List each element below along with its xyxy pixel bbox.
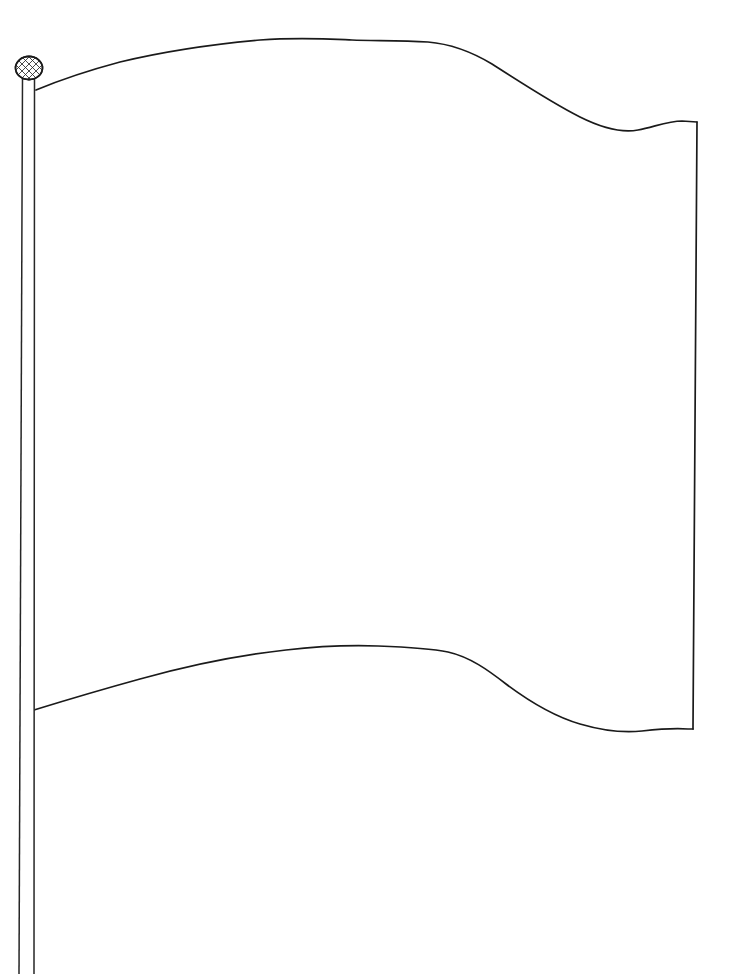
flagpole-right-edge [34, 78, 35, 974]
flag-line-drawing [0, 0, 734, 974]
flag-field [34, 38, 697, 731]
artboard: Blank Waving Flag on Flagpole Blank flag… [0, 0, 734, 974]
